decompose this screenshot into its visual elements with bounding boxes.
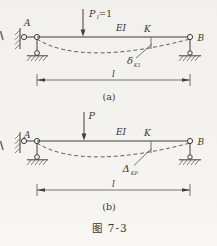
- deflection-curve-a: [37, 39, 190, 53]
- stiffness-label-a: EI: [115, 23, 127, 33]
- pin-support-left-a: [15, 28, 48, 61]
- point-K-label-b: K: [143, 128, 152, 138]
- load-value-a: =1: [99, 9, 112, 19]
- node-label-B-b: B: [197, 137, 205, 147]
- deflection-subscript-a: K1: [133, 62, 141, 68]
- load-arrow-a: [81, 9, 86, 37]
- deflection-leader-a: [136, 45, 152, 59]
- diagram-b: P A B EI K Δ KP l (b): [15, 110, 205, 212]
- span-label-b: l: [112, 179, 115, 189]
- pin-support-left-b: [15, 132, 48, 165]
- deflection-label-b: Δ: [122, 163, 130, 174]
- span-label-a: l: [112, 69, 115, 79]
- panel-tag-a: (a): [102, 91, 115, 102]
- figure-caption: 图 7-3: [92, 222, 127, 234]
- deflection-subscript-b: KP: [130, 170, 139, 176]
- scan-edge-mark: [1, 31, 4, 150]
- panel-tag-b: (b): [102, 201, 116, 212]
- diagram-a: P 1 =1 A B EI K δ K1 l (a): [15, 8, 205, 102]
- deflection-label-a: δ: [127, 55, 133, 66]
- load-label-a: P: [88, 8, 96, 19]
- figure-page: P 1 =1 A B EI K δ K1 l (a): [0, 0, 217, 246]
- deflection-curve-b: [37, 143, 190, 157]
- node-label-B-a: B: [197, 33, 205, 43]
- stiffness-label-b: EI: [115, 127, 127, 137]
- deflection-leader-b: [134, 149, 152, 166]
- node-label-A-b: A: [23, 130, 31, 140]
- load-arrow-b: [82, 112, 87, 141]
- node-label-A-a: A: [23, 18, 31, 28]
- figure-7-3-canvas: P 1 =1 A B EI K δ K1 l (a): [0, 0, 217, 246]
- load-label-b: P: [88, 110, 96, 121]
- point-K-label-a: K: [143, 24, 152, 34]
